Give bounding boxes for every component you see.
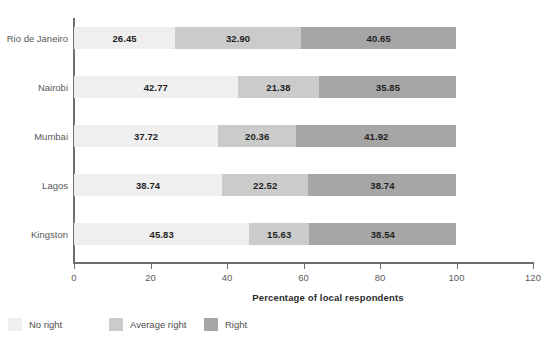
legend-item[interactable]: Right: [204, 318, 247, 331]
bar-value-label: 41.92: [364, 131, 388, 142]
bar-row: 42.7721.3835.85: [0, 76, 558, 98]
bar-row: 45.8315.6338.54: [0, 223, 558, 245]
bar-segment: 45.83: [74, 223, 249, 245]
bar-value-label: 35.85: [376, 82, 400, 93]
bar-value-label: 21.38: [266, 82, 290, 93]
bar-value-label: 38.74: [370, 180, 394, 191]
bar-segment: 21.38: [238, 76, 320, 98]
bar-value-label: 37.72: [134, 131, 158, 142]
bar-value-label: 38.54: [371, 229, 395, 240]
legend-label: Right: [225, 319, 247, 330]
bar-segment: 22.52: [222, 174, 308, 196]
legend-swatch: [109, 318, 123, 331]
bar-value-label: 40.65: [367, 33, 391, 44]
bar-row: 26.4532.9040.65: [0, 27, 558, 49]
bar-value-label: 15.63: [267, 229, 291, 240]
bar-segment: 35.85: [319, 76, 456, 98]
bar-value-label: 20.36: [245, 131, 269, 142]
x-axis-tick-label: 0: [71, 272, 76, 283]
bar-value-label: 22.52: [253, 180, 277, 191]
bar-segment: 38.74: [308, 174, 456, 196]
x-axis-tick: [227, 263, 228, 269]
bar-segment: 41.92: [296, 125, 456, 147]
x-axis-tick-label: 80: [375, 272, 386, 283]
bar-segment: 37.72: [74, 125, 218, 147]
bar-segment: 38.74: [74, 174, 222, 196]
bar-value-label: 26.45: [112, 33, 136, 44]
bar-row: 37.7220.3641.92: [0, 125, 558, 147]
legend-label: No right: [29, 319, 62, 330]
legend-swatch: [204, 318, 218, 331]
bar-value-label: 32.90: [226, 33, 250, 44]
stacked-bar-chart: 020406080100120 Rio de JaneiroNairobiMum…: [0, 0, 558, 346]
bar-segment: 40.65: [301, 27, 456, 49]
bar-value-label: 42.77: [144, 82, 168, 93]
x-axis-tick-label: 60: [298, 272, 309, 283]
x-axis-tick: [74, 263, 75, 269]
bar-segment: 15.63: [249, 223, 309, 245]
x-axis-tick: [151, 263, 152, 269]
x-axis-tick-label: 120: [525, 272, 541, 283]
bar-segment: 26.45: [74, 27, 175, 49]
legend-item[interactable]: Average right: [109, 318, 186, 331]
bar-segment: 42.77: [74, 76, 238, 98]
legend-item[interactable]: No right: [8, 318, 62, 331]
legend-label: Average right: [130, 319, 186, 330]
x-axis-tick-label: 40: [222, 272, 233, 283]
bar-value-label: 38.74: [136, 180, 160, 191]
bar-segment: 32.90: [175, 27, 301, 49]
bar-row: 38.7422.5238.74: [0, 174, 558, 196]
x-axis-tick: [533, 263, 534, 269]
x-axis-tick: [380, 263, 381, 269]
x-axis-tick: [304, 263, 305, 269]
x-axis-tick: [457, 263, 458, 269]
x-axis-title: Percentage of local respondents: [0, 292, 558, 303]
bar-segment: 38.54: [309, 223, 456, 245]
legend-swatch: [8, 318, 22, 331]
bar-segment: 20.36: [218, 125, 296, 147]
x-axis-tick-label: 20: [145, 272, 156, 283]
bar-value-label: 45.83: [150, 229, 174, 240]
x-axis-tick-label: 100: [449, 272, 465, 283]
